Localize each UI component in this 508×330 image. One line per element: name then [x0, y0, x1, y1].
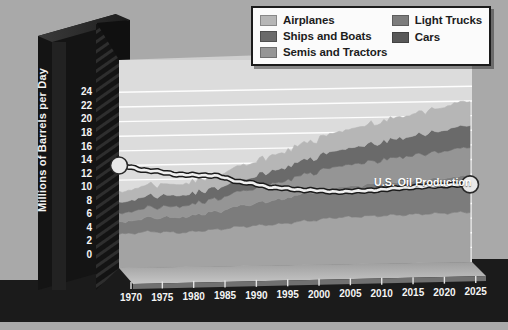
legend-item-semis-and-tractors[interactable]: Semis and Tractors: [260, 46, 392, 60]
x-tick-2010: 2010: [365, 289, 399, 299]
legend-label: Cars: [415, 32, 440, 43]
y-tick-6: 6: [70, 209, 92, 219]
x-tick-2025: 2025: [459, 287, 493, 297]
legend-item-light-trucks[interactable]: Light Trucks: [392, 13, 482, 28]
legend-swatch-icon: [392, 32, 409, 43]
y-tick-14: 14: [70, 155, 92, 165]
x-tick-2020: 2020: [427, 288, 461, 298]
y-tick-20: 20: [70, 114, 92, 124]
y-tick-4: 4: [70, 223, 92, 233]
x-tick-1970: 1970: [114, 293, 148, 303]
y-tick-22: 22: [70, 101, 92, 111]
x-tick-1990: 1990: [239, 291, 273, 301]
y-axis-title: Millions of Barrels per Day: [36, 60, 48, 220]
legend-label: Ships and Boats: [283, 31, 372, 42]
legend-item-ships-and-boats[interactable]: Ships and Boats: [260, 29, 392, 43]
oil-production-label: U.S. Oil Production: [374, 176, 472, 188]
chart-legend[interactable]: AirplanesShips and BoatsSemis and Tracto…: [251, 6, 491, 66]
y-tick-12: 12: [70, 169, 92, 179]
chart-canvas: Millions of Barrels per Day 242220181614…: [0, 0, 508, 330]
legend-swatch-icon: [392, 15, 409, 26]
legend-item-cars[interactable]: Cars: [392, 30, 482, 45]
legend-swatch-icon: [260, 31, 277, 42]
legend-column-left: AirplanesShips and BoatsSemis and Tracto…: [260, 13, 392, 60]
x-tick-1985: 1985: [208, 291, 242, 301]
legend-swatch-icon: [260, 15, 277, 26]
legend-item-airplanes[interactable]: Airplanes: [260, 13, 392, 27]
y-tick-0: 0: [70, 250, 92, 260]
side-wall-hatch: [96, 22, 119, 290]
legend-column-right: Light TrucksCars: [392, 13, 482, 60]
y-tick-8: 8: [70, 196, 92, 206]
x-tick-1975: 1975: [145, 293, 179, 303]
legend-swatch-icon: [260, 47, 277, 58]
x-tick-1980: 1980: [177, 292, 211, 302]
x-tick-2015: 2015: [396, 288, 430, 298]
legend-label: Airplanes: [283, 15, 335, 26]
y-tick-16: 16: [70, 142, 92, 152]
x-tick-1995: 1995: [271, 290, 305, 300]
y-tick-10: 10: [70, 182, 92, 192]
y-tick-2: 2: [70, 236, 92, 246]
x-tick-2005: 2005: [333, 289, 367, 299]
x-tick-2000: 2000: [302, 290, 336, 300]
legend-label: Light Trucks: [415, 15, 482, 26]
y-tick-18: 18: [70, 128, 92, 138]
y-tick-24: 24: [70, 87, 92, 97]
legend-label: Semis and Tractors: [283, 47, 387, 58]
